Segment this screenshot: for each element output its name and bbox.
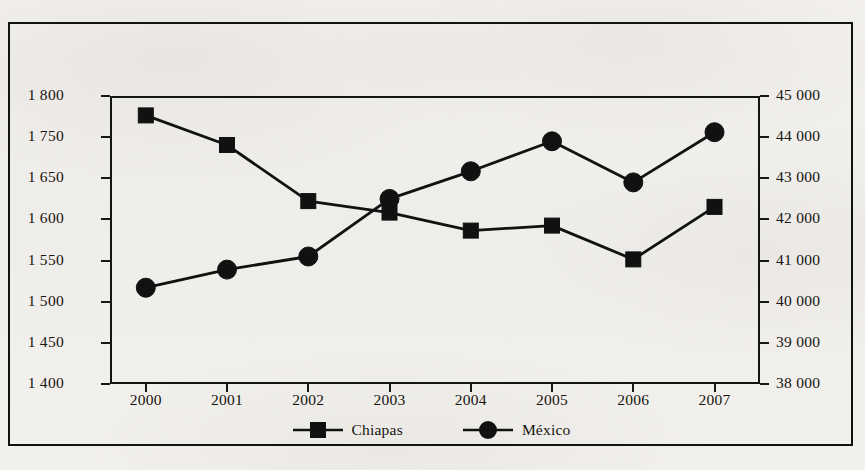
chart-frame: 1 8001 7501 6501 6001 5501 5001 4501 400… <box>8 22 853 446</box>
data-point-marker-circle[interactable] <box>461 162 480 181</box>
series-layer <box>10 24 855 448</box>
scan-bleed-artifact-top <box>150 4 156 24</box>
legend-square-icon <box>291 420 345 440</box>
plot-wrapper: 1 8001 7501 6501 6001 5501 5001 4501 400… <box>10 24 851 444</box>
data-point-marker-square[interactable] <box>138 108 153 123</box>
data-point-marker-square[interactable] <box>463 223 478 238</box>
legend-circle-icon <box>461 420 515 440</box>
data-point-marker-square[interactable] <box>545 218 560 233</box>
page-background: 1 8001 7501 6501 6001 5501 5001 4501 400… <box>0 0 865 470</box>
data-point-marker-square[interactable] <box>707 199 722 214</box>
data-point-marker-circle[interactable] <box>705 123 724 142</box>
chart-legend: ChiapasMéxico <box>10 420 851 440</box>
data-point-marker-square[interactable] <box>220 138 235 153</box>
data-point-marker-circle[interactable] <box>218 260 237 279</box>
legend-item-chiapas[interactable]: Chiapas <box>291 420 403 440</box>
data-point-marker-circle[interactable] <box>299 247 318 266</box>
legend-item-mxico[interactable]: México <box>461 420 571 440</box>
data-point-marker-square[interactable] <box>301 194 316 209</box>
legend-label: México <box>522 421 571 439</box>
legend-label: Chiapas <box>352 421 403 439</box>
data-point-marker-circle[interactable] <box>136 278 155 297</box>
data-point-marker-circle[interactable] <box>380 189 399 208</box>
data-point-marker-circle[interactable] <box>543 132 562 151</box>
data-point-marker-circle[interactable] <box>624 173 643 192</box>
data-point-marker-square[interactable] <box>626 252 641 267</box>
